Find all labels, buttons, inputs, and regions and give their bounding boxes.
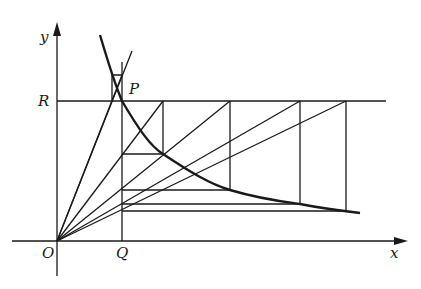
diagram-canvas [0,0,421,289]
label-q: Q [116,246,128,261]
ray-1 [57,101,163,241]
ray-3 [57,101,300,241]
y-axis-arrow-icon [53,22,61,36]
label-y: y [40,30,48,45]
ray-to-box [57,75,122,241]
label-x: x [390,246,398,261]
label-p: P [129,82,139,97]
ray-2 [57,101,230,241]
label-o: O [42,246,54,261]
ray-4 [57,101,346,241]
label-r: R [38,94,49,109]
